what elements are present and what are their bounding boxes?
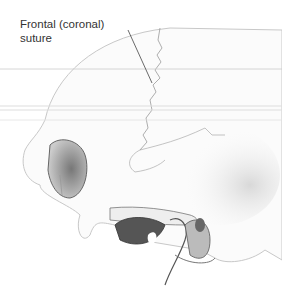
label-line-1: Frontal (coronal) (20, 17, 104, 31)
temporal-shading (160, 125, 280, 225)
skull-illustration: Frontal (coronal) suture (0, 0, 282, 297)
ear-canal (195, 218, 205, 232)
label-line-2: suture (20, 31, 104, 45)
suture-label: Frontal (coronal) suture (20, 17, 104, 45)
